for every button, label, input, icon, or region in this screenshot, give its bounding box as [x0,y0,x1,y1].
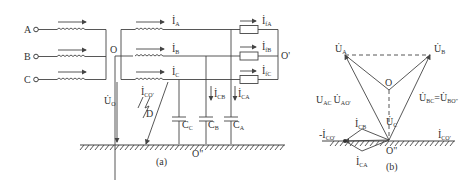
current-ica-label: İCA [238,88,250,100]
hatch-mark [165,145,169,150]
current-ifb-label: İfB [262,41,271,53]
coil-c-icon [57,78,85,80]
vector-ob [389,55,430,90]
hatch-mark [170,145,174,150]
terminal-b [34,54,39,59]
fault-point-label: D [146,108,153,119]
hatch-mark [220,145,224,150]
hatch-mark [240,145,244,150]
hatch-mark [120,145,124,150]
hatch-mark [115,145,119,150]
hatch-mark [225,145,229,150]
figure-b: U̇A U̇B O U̇C UACU̇AO' U̇BC=U̇BO" İCB İC… [316,43,458,173]
o-label: O [385,77,392,88]
hatch-mark [335,141,339,146]
hatch-mark [110,145,114,150]
hatch-mark [100,145,104,150]
hatch-mark [430,141,434,146]
hatch-mark [205,145,209,150]
hatch-mark [415,141,419,146]
load-c [240,76,258,84]
hatch-mark [420,141,424,146]
hatch-mark [125,145,129,150]
vector-ua [345,55,389,140]
hatch-mark [450,141,454,146]
current-ib-label: İB [172,43,179,55]
hatch-mark [130,145,134,150]
hatch-mark [280,145,284,150]
hatch-mark [210,145,214,150]
terminal-c-label: C [24,74,31,85]
ground-hatch [80,145,284,150]
hatch-mark [215,145,219,150]
hatch-mark [245,145,249,150]
terminal-b-label: B [24,51,31,62]
neutral-o-label: O [110,44,117,55]
current-ia-label: İA [172,15,180,27]
secondary-coils [121,22,164,80]
coil-a-icon [57,28,85,30]
ub-label: U̇B [434,43,445,55]
caption-b: (b) [386,161,398,173]
coil-b-icon [57,55,85,57]
hatch-mark [85,145,89,150]
vector-ica [345,140,389,151]
hatch-mark [330,141,334,146]
current-icb-label: İCB [214,88,225,100]
ico-neg-label: -İCO' [319,129,335,141]
ua-label: U̇A [335,43,347,55]
current-ifa-label: İfA [262,15,272,27]
source-terminals: A B C [24,24,38,85]
hatch-mark [180,145,184,150]
terminal-a-label: A [24,24,32,35]
hatch-mark [175,145,179,150]
ground-point-label: O" [192,148,203,159]
hatch-mark [445,141,449,146]
hatch-mark [145,145,149,150]
coil-sa-icon [135,28,163,30]
hatch-mark [80,145,84,150]
hatch-mark [230,145,234,150]
hatch-mark [405,141,409,146]
uc-label: U̇C [386,116,397,128]
hatch-mark [95,145,99,150]
source-coils [38,22,106,80]
hatch-mark [275,145,279,150]
fault-current-label: İCO' [141,86,154,98]
ica-label: İCA [356,156,368,168]
coil-sb-icon [135,55,163,57]
hatch-mark [160,145,164,150]
vector-icb [345,129,389,141]
hatch-mark [260,145,264,150]
hatch-mark [140,145,144,150]
cap-cc-label: CC [182,119,193,131]
current-ic-label: İC [172,66,179,78]
hatch-mark [135,145,139,150]
hatch-mark [410,141,414,146]
coil-sc-icon [135,78,163,80]
hatch-mark [255,145,259,150]
hatch-mark [185,145,189,150]
right-equation: U̇BC=U̇BO" [419,92,458,104]
figure-a: A B C O [24,15,290,180]
hatch-mark [270,145,274,150]
hatch-mark [250,145,254,150]
hatch-mark [400,141,404,146]
terminal-c [34,77,39,82]
icb-label: İCB [355,118,366,130]
hatch-mark [355,141,359,146]
terminal-a [34,27,39,32]
hatch-mark [150,145,154,150]
cap-ca-label: CA [233,119,245,131]
hatch-mark [425,141,429,146]
cap-cb-label: CB [208,119,219,131]
hatch-mark [265,145,269,150]
hatch-mark [360,141,364,146]
neutral-voltage-label: U̇O [104,95,116,107]
hatch-mark [370,141,374,146]
hatch-mark [435,141,439,146]
hatch-mark [90,145,94,150]
ico-label: İCO' [438,129,451,141]
neutral-o-prime-label: O' [281,50,290,61]
diagram-canvas: A B C O [0,0,476,185]
